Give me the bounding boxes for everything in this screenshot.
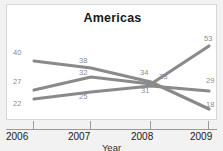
x-axis-label-2008: 2008 (131, 131, 153, 142)
data-label-s2-2009: 53 (204, 35, 212, 43)
x-axis-title: Year (6, 142, 217, 151)
data-label-s3-2008: 31 (141, 87, 149, 95)
series-line-2 (34, 46, 209, 90)
data-label-s3-2009: 29 (206, 77, 214, 85)
x-axis-tick-2006 (33, 121, 34, 129)
x-axis-label-2009: 2009 (190, 131, 212, 142)
series-lines (7, 5, 217, 120)
x-axis: 2006 2007 2008 2009 Year (6, 120, 217, 151)
x-axis-line (6, 129, 217, 130)
x-axis-tick-2009 (208, 121, 209, 129)
data-label-s1-2009: 18 (206, 101, 214, 109)
x-axis-label-2007: 2007 (68, 131, 90, 142)
x-axis-tick-2008 (150, 121, 151, 129)
x-axis-label-2006: 2006 (6, 131, 28, 142)
data-label-s3-2007: 25 (79, 93, 87, 101)
plot-area: Americas 40 38 34 18 27 32 33 53 22 25 3… (6, 4, 217, 120)
chart-figure: Americas 40 38 34 18 27 32 33 53 22 25 3… (0, 0, 223, 151)
data-label-s2-2006: 27 (13, 78, 21, 86)
data-label-s1-2007: 38 (79, 57, 87, 65)
data-label-s3-2006: 22 (13, 100, 21, 108)
data-label-s2-2007: 32 (79, 69, 87, 77)
data-label-s2-2008: 33 (159, 73, 167, 81)
data-label-s1-2006: 40 (13, 49, 21, 57)
x-axis-tick-2007 (90, 121, 91, 129)
data-label-s1-2008: 34 (140, 69, 148, 77)
